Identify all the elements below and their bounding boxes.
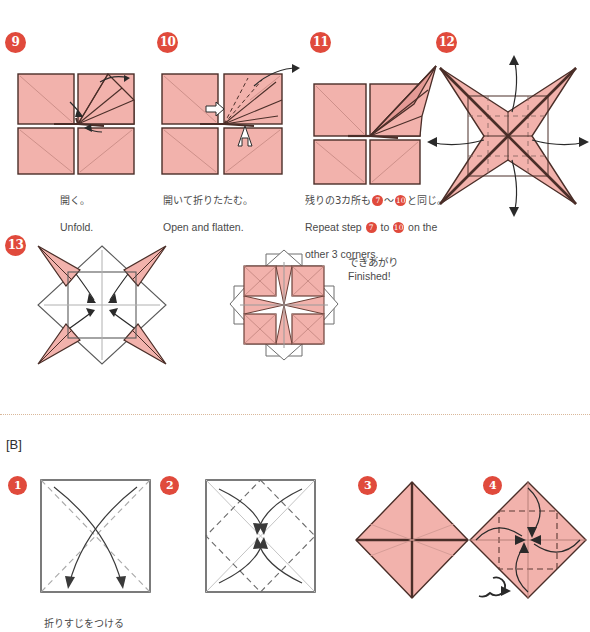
caption-step-9-en: Unfold. [60,221,93,235]
caption-11-jp-pre: 残りの3カ所も [305,195,371,206]
caption-step-9-jp: 開く。 [60,194,93,208]
caption-step-11-en-line1: Repeat step 7 to 10 on the [305,221,450,235]
inline-step-num-10-jp: 10 [395,195,406,206]
figure-step-b2 [203,477,318,597]
caption-step-9: 開く。 Unfold. [60,180,93,248]
figure-step-b4 [466,478,590,604]
caption-step-10-en: Open and flatten. [163,221,253,235]
step-badge-b2: 2 [160,476,179,495]
finished-label-en: Finished! [348,269,398,283]
step-badge-9: 9 [5,32,26,53]
caption-step-b1-jp: 折りすじをつける [44,617,124,631]
step-badge-12: 12 [436,32,457,53]
caption-11-en-pre: Repeat step [305,221,365,233]
caption-11-en-mid: to [378,221,393,233]
figure-step-13 [32,240,172,370]
section-label-b: [B] [6,437,22,452]
finished-label: できあがり Finished! [348,255,398,283]
inline-step-num-7-en: 7 [366,222,377,233]
caption-11-en-post: on the [405,221,437,233]
step-badge-b1: 1 [8,476,27,495]
caption-step-10-jp: 開いて折りたたむ。 [163,194,253,208]
caption-11-jp-mid: ～ [384,195,394,206]
step-badge-10: 10 [157,32,178,53]
figure-step-12 [428,56,588,216]
section-divider [0,414,590,415]
step-badge-11: 11 [310,32,331,53]
figure-step-10 [158,66,308,176]
caption-step-b1: 折りすじをつける [44,603,124,632]
figure-step-9 [14,66,144,176]
figure-finished-flower [228,248,340,362]
caption-step-10: 開いて折りたたむ。 Open and flatten. [163,180,253,248]
inline-step-num-7-jp: 7 [372,195,383,206]
figure-step-b1 [38,477,153,597]
finished-label-jp: できあがり [348,255,398,269]
step-badge-13: 13 [5,235,26,256]
inline-step-num-10-en: 10 [393,222,404,233]
figure-step-b3 [352,478,472,604]
